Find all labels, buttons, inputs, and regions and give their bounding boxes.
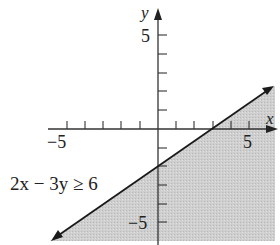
x-axis-label: x [265, 109, 274, 128]
y-axis-label: y [139, 3, 149, 22]
x-tick-label-neg5: −5 [47, 132, 66, 152]
y-tick-label-neg5: −5 [128, 213, 147, 233]
y-axis-arrow-icon [154, 8, 162, 20]
y-tick-label-5: 5 [141, 26, 150, 46]
x-tick-label-5: 5 [243, 132, 252, 152]
inequality-label: 2x − 3y ≥ 6 [10, 173, 98, 194]
inequality-graph: y x 5 −5 5 −5 2x − 3y ≥ 6 [0, 0, 280, 245]
